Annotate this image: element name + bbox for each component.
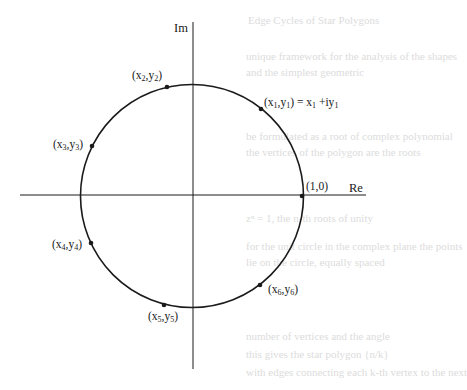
point-label-5: (x5,y5) xyxy=(148,310,178,324)
root-point-6 xyxy=(258,283,263,288)
unit-circle xyxy=(81,85,304,308)
root-point-3 xyxy=(90,144,95,149)
point-label-6: (x6,y6) xyxy=(268,283,298,297)
imaginary-axis-label: Im xyxy=(174,21,188,35)
root-point-4 xyxy=(89,241,94,246)
point-label-4: (x4,y4) xyxy=(52,238,82,252)
root-point-2 xyxy=(165,85,170,90)
real-axis-label: Re xyxy=(349,181,363,195)
root-point-1 xyxy=(259,107,264,112)
point-label-1: (x1,y1) = x1 +iy1 xyxy=(264,96,338,110)
point-label-3: (x3,y3) xyxy=(53,138,83,152)
root-point-5 xyxy=(162,303,167,308)
point-label-2: (x2,y2) xyxy=(132,69,162,83)
point-label-unity: (1,0) xyxy=(306,180,328,193)
root-point-unity xyxy=(300,194,305,199)
